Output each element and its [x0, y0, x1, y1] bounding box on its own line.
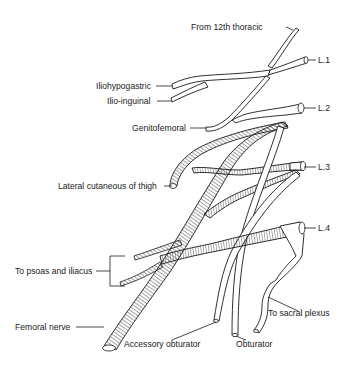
label-to-psoas-and-iliacus: To psoas and iliacus: [15, 266, 92, 276]
label-l2: L.2: [318, 103, 330, 113]
femoral-nerve-end: [103, 345, 116, 351]
label-femoral-nerve: Femoral nerve: [15, 322, 70, 332]
label-ilio-inguinal: Ilio-inguinal: [107, 96, 150, 106]
label-from-12th-thoracic: From 12th thoracic: [191, 22, 263, 32]
label-l1: L.1: [318, 55, 330, 65]
label-to-sacral-plexus: To sacral plexus: [268, 308, 330, 318]
label-iliohypogastric: Iliohypogastric: [96, 81, 151, 91]
label-l4: L.4: [318, 223, 330, 233]
label-accessory-obturator: Accessory obturator: [124, 339, 200, 349]
label-l3: L.3: [318, 162, 330, 172]
upper-nerves: [171, 28, 308, 131]
label-obturator: Obturator: [236, 339, 272, 349]
label-genitofemoral: Genitofemoral: [132, 123, 186, 133]
label-lateral-cutaneous-of-thigh: Lateral cutaneous of thigh: [58, 181, 157, 191]
